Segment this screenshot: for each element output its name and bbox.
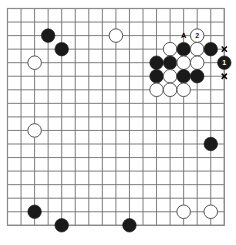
board-background xyxy=(0,0,236,245)
go-board-diagram: A 21 xyxy=(0,0,236,245)
go-board-grid xyxy=(0,0,236,245)
